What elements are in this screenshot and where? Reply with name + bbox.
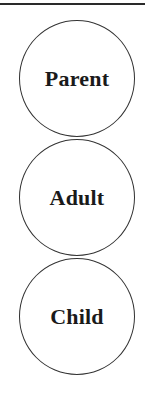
child-node: Child bbox=[19, 258, 135, 375]
adult-node-label: Adult bbox=[50, 185, 105, 211]
parent-node: Parent bbox=[19, 20, 135, 137]
child-node-label: Child bbox=[50, 304, 104, 330]
parent-node-label: Parent bbox=[45, 66, 109, 92]
adult-node: Adult bbox=[19, 139, 135, 256]
top-divider-line bbox=[0, 3, 145, 5]
